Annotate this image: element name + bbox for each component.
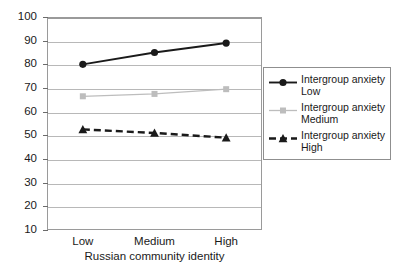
legend-label-line2: Low (301, 86, 385, 98)
series-2 (80, 86, 229, 99)
legend-label: Intergroup anxietyLow (301, 74, 385, 97)
y-tick-label: 40 (24, 153, 37, 165)
y-tick-label: 30 (24, 177, 37, 189)
chart-legend: Intergroup anxietyLowIntergroup anxietyM… (263, 67, 391, 160)
series-1 (79, 39, 230, 68)
legend-label: Intergroup anxietyHigh (301, 130, 385, 153)
y-axis: 100908070605040302010 (0, 0, 47, 276)
x-tick-label: Medium (134, 235, 175, 247)
y-tick-mark (43, 230, 48, 231)
y-tick-label: 50 (24, 129, 37, 141)
legend-item-1: Intergroup anxietyLow (268, 74, 386, 97)
legend-swatch-icon (268, 75, 298, 88)
data-point-marker (279, 79, 286, 86)
x-tick-label: Low (72, 235, 93, 247)
data-point-marker (223, 39, 230, 46)
data-point-marker (152, 91, 158, 97)
y-tick-label: 80 (24, 58, 37, 70)
data-point-marker (151, 49, 158, 56)
data-point-marker (79, 61, 86, 68)
legend-label-line1: Intergroup anxiety (301, 73, 385, 85)
y-tick-label: 70 (24, 82, 37, 94)
y-tick-label: 20 (24, 200, 37, 212)
legend-item-2: Intergroup anxietyMedium (268, 102, 386, 125)
series-layer (47, 17, 262, 230)
data-point-marker (280, 108, 286, 114)
series-3 (78, 125, 230, 141)
x-tick-label: High (214, 235, 238, 247)
y-tick-label: 90 (24, 35, 37, 47)
y-tick-label: 60 (24, 106, 37, 118)
legend-swatch-icon (268, 103, 298, 116)
chart-figure: 100908070605040302010 LowMediumHigh Russ… (0, 0, 398, 276)
legend-label-line1: Intergroup anxiety (301, 101, 385, 113)
legend-swatch-icon (268, 131, 298, 144)
y-tick-label: 10 (24, 224, 37, 236)
legend-label-line2: Medium (301, 114, 385, 126)
legend-label: Intergroup anxietyMedium (301, 102, 385, 125)
y-tick-label: 100 (18, 11, 37, 23)
legend-label-line1: Intergroup anxiety (301, 129, 385, 141)
data-point-marker (223, 86, 229, 92)
legend-item-3: Intergroup anxietyHigh (268, 130, 386, 153)
data-point-marker (222, 133, 231, 141)
data-point-marker (80, 93, 86, 99)
x-axis-title: Russian community identity (47, 250, 262, 263)
legend-label-line2: High (301, 142, 385, 154)
